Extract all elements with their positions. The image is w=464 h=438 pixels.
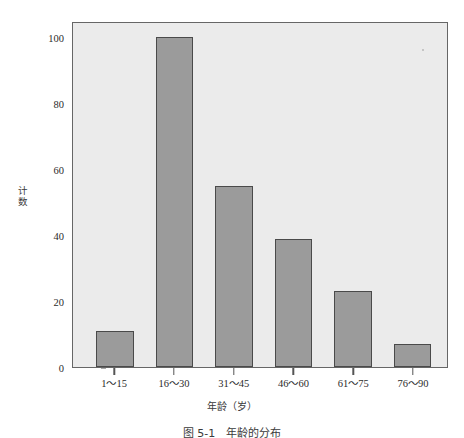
y-axis-tick-group: 0 20 40 60 80 100 [34,22,64,368]
scan-artifact-speck [422,49,424,51]
y-tick-label: 80 [54,99,65,110]
x-axis-title: 年龄（岁） [0,398,464,413]
y-tick-label: 60 [54,165,65,176]
figure-root: 计数 0 20 40 60 80 100 [0,0,464,438]
bar [394,344,432,367]
x-tick-label: 1～15 [101,375,127,390]
x-tick-label: 31～45 [218,375,249,390]
x-tick-mark [412,368,413,375]
x-tick-mark [233,368,234,375]
bars-container [73,23,447,367]
y-tick-label: 20 [54,297,65,308]
bar [215,186,253,367]
bar [334,291,372,367]
figure-caption: 图 5-1 年龄的分布 [0,424,464,438]
y-tick-label: 40 [54,231,65,242]
x-tick-label: 16～30 [158,375,189,390]
bar [96,331,134,367]
x-tick-label: 46～60 [278,375,309,390]
y-axis-title: 计数 [16,185,30,207]
bar [275,239,313,368]
y-tick-label: 0 [59,363,64,374]
x-axis-label-group: 1～15 16～30 31～45 46～60 61～75 76～90 [72,375,448,391]
plot-area [72,22,448,368]
bar [156,37,194,367]
x-tick-mark [113,368,114,375]
x-tick-label: 61～75 [338,375,369,390]
x-tick-mark [173,368,174,375]
y-tick-label: 100 [48,33,64,44]
x-tick-mark [293,368,294,375]
x-tick-label: 76～90 [398,375,429,390]
x-tick-mark [353,368,354,375]
